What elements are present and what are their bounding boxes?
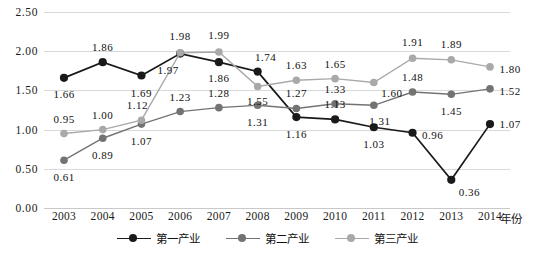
data-point-marker [60, 74, 68, 82]
data-point-marker [254, 83, 262, 91]
data-point-marker [99, 126, 107, 134]
x-axis-tick-label: 2004 [91, 210, 115, 222]
data-point-marker [370, 101, 378, 109]
data-point-marker [408, 129, 416, 137]
x-axis-tick-label: 2011 [362, 210, 386, 222]
legend-dot-icon [238, 234, 246, 242]
legend-marker-icon [117, 233, 151, 243]
data-point-marker [138, 116, 146, 124]
x-axis-tick-label: 2008 [246, 210, 270, 222]
plot-area: 1.661.861.691.971.861.741.161.131.030.96… [44, 12, 510, 208]
data-point-marker [176, 108, 184, 116]
data-point-marker [293, 105, 301, 113]
x-axis-tick-label: 2013 [439, 210, 463, 222]
x-axis-tick-label: 2012 [400, 210, 424, 222]
x-axis-tick-label: 2009 [284, 210, 308, 222]
data-point-marker [254, 67, 262, 75]
data-point-marker [293, 76, 301, 84]
data-point-marker [215, 104, 223, 112]
data-point-marker [215, 48, 223, 56]
y-axis-tick-label: 1.50 [0, 84, 38, 96]
y-axis-tick-label: 0.50 [0, 163, 38, 175]
data-point-marker [99, 134, 107, 142]
data-point-marker [215, 58, 223, 66]
data-point-marker [370, 123, 378, 131]
y-axis-tick-label: 1.00 [0, 124, 38, 136]
x-axis-tick-label: 2006 [168, 210, 192, 222]
x-axis-tick-label: 2014 [478, 210, 502, 222]
data-point-marker [176, 49, 184, 57]
data-point-marker [447, 56, 455, 64]
x-axis-tick-label: 2010 [323, 210, 347, 222]
y-axis-tick-label: 2.50 [0, 6, 38, 18]
chart-legend: 第一产业第二产业第三产业 [0, 230, 534, 246]
y-axis-tick-label: 0.00 [0, 202, 38, 214]
data-point-marker [331, 115, 339, 123]
data-point-marker [370, 79, 378, 87]
legend-label: 第一产业 [156, 230, 200, 246]
legend-label: 第二产业 [265, 230, 309, 246]
legend-dot-icon [129, 234, 137, 242]
data-point-marker [486, 120, 494, 128]
data-point-marker [331, 100, 339, 108]
chart-figure: 1.661.861.691.971.861.741.161.131.030.96… [0, 0, 534, 263]
data-point-marker [99, 58, 107, 66]
data-point-marker [486, 85, 494, 93]
data-point-marker [331, 75, 339, 83]
x-axis-tick-label: 2003 [52, 210, 76, 222]
x-axis-tick-label: 2005 [129, 210, 153, 222]
series-line [64, 54, 490, 180]
legend-label: 第三产业 [374, 230, 418, 246]
data-point-marker [292, 113, 300, 121]
legend-item[interactable]: 第二产业 [226, 230, 309, 246]
x-axis: 2003200420052006200720082009201020112012… [44, 210, 510, 228]
data-point-marker [60, 130, 68, 138]
series-layer [44, 12, 510, 208]
y-axis-tick-label: 2.00 [0, 45, 38, 57]
legend-dot-icon [347, 234, 355, 242]
x-axis-tick-label: 2007 [207, 210, 231, 222]
legend-item[interactable]: 第一产业 [117, 230, 200, 246]
data-point-marker [409, 88, 417, 96]
data-point-marker [60, 156, 68, 164]
data-point-marker [409, 54, 417, 62]
legend-marker-icon [335, 233, 369, 243]
gridline [44, 208, 510, 209]
data-point-marker [254, 101, 262, 109]
data-point-marker [486, 63, 494, 71]
data-point-marker [447, 91, 455, 99]
data-point-marker [137, 71, 145, 79]
legend-item[interactable]: 第三产业 [335, 230, 418, 246]
data-point-marker [447, 176, 455, 184]
legend-marker-icon [226, 233, 260, 243]
x-axis-title: 年份 [500, 210, 522, 226]
